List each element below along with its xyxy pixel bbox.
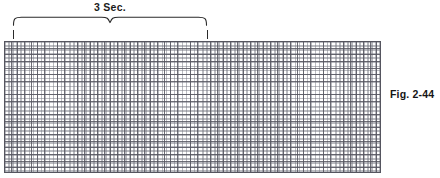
interval-annotation: 3 Sec. — [0, 0, 440, 41]
interval-tick-right — [207, 30, 208, 39]
interval-tick-left — [13, 30, 14, 39]
interval-label: 3 Sec. — [13, 1, 207, 13]
ecg-graph-paper — [4, 41, 381, 173]
curly-brace-icon — [9, 14, 211, 26]
ecg-figure: 3 Sec. Fig. 2-44 — [0, 0, 440, 178]
figure-caption: Fig. 2-44 — [390, 88, 434, 100]
